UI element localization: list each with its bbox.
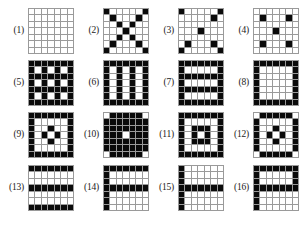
cell <box>198 100 204 106</box>
cell <box>273 132 279 138</box>
cell <box>254 119 260 125</box>
cell <box>254 152 260 158</box>
cell <box>55 87 61 93</box>
cell <box>55 126 61 132</box>
cell <box>254 67 260 73</box>
cell <box>218 152 224 158</box>
cell <box>35 87 41 93</box>
cell <box>179 15 185 21</box>
cell <box>104 119 110 125</box>
cell <box>254 9 260 15</box>
cell <box>123 166 129 172</box>
cell <box>280 93 286 99</box>
panel-15: (15) <box>152 165 224 211</box>
cell <box>205 87 211 93</box>
cell <box>205 185 211 191</box>
cell <box>267 41 273 47</box>
cell <box>130 35 136 41</box>
cell <box>260 145 266 151</box>
cell <box>117 28 123 34</box>
cell <box>123 48 129 54</box>
cell <box>104 166 110 172</box>
cell <box>192 9 198 15</box>
cell <box>192 93 198 99</box>
cell <box>280 9 286 15</box>
cell <box>192 192 198 198</box>
cell <box>29 9 35 15</box>
cell <box>42 28 48 34</box>
cell <box>293 87 299 93</box>
cell <box>110 139 116 145</box>
cell <box>286 172 292 178</box>
cell <box>35 113 41 119</box>
cell <box>35 9 41 15</box>
cell <box>218 126 224 132</box>
cell <box>29 35 35 41</box>
cell <box>211 192 217 198</box>
cell <box>48 80 54 86</box>
cell <box>130 172 136 178</box>
cell <box>286 28 292 34</box>
cell <box>29 145 35 151</box>
cell <box>286 9 292 15</box>
cell <box>143 113 149 119</box>
cell <box>136 172 142 178</box>
cell <box>35 41 41 47</box>
cell <box>293 139 299 145</box>
cell <box>179 87 185 93</box>
cell <box>211 145 217 151</box>
cell <box>42 198 48 204</box>
cell <box>205 61 211 67</box>
cell <box>286 179 292 185</box>
cell <box>130 9 136 15</box>
cell <box>48 87 54 93</box>
cell <box>123 28 129 34</box>
cell <box>293 179 299 185</box>
pattern-2-diagonal-cross <box>103 8 149 54</box>
cell <box>293 61 299 67</box>
cell <box>218 15 224 21</box>
cell <box>185 22 191 28</box>
cell <box>117 35 123 41</box>
cell <box>198 87 204 93</box>
cell <box>260 87 266 93</box>
cell <box>273 100 279 106</box>
cell <box>293 132 299 138</box>
cell <box>273 126 279 132</box>
panel-9: (9) <box>2 112 74 158</box>
cell <box>293 172 299 178</box>
cell <box>192 172 198 178</box>
cell <box>42 166 48 172</box>
pattern-1-empty <box>28 8 74 54</box>
cell <box>55 132 61 138</box>
cell <box>286 192 292 198</box>
cell <box>211 80 217 86</box>
cell <box>130 166 136 172</box>
cell <box>35 28 41 34</box>
cell <box>104 15 110 21</box>
cell <box>104 179 110 185</box>
cell <box>48 192 54 198</box>
cell <box>192 28 198 34</box>
cell <box>42 61 48 67</box>
cell <box>68 139 74 145</box>
cell <box>136 152 142 158</box>
cell <box>48 113 54 119</box>
cell <box>205 205 211 211</box>
panel-10: (10) <box>77 112 149 158</box>
cell <box>286 132 292 138</box>
cell <box>143 28 149 34</box>
cell <box>29 48 35 54</box>
cell <box>130 152 136 158</box>
cell <box>273 15 279 21</box>
cell <box>48 119 54 125</box>
cell <box>143 61 149 67</box>
cell <box>218 41 224 47</box>
cell <box>123 119 129 125</box>
cell <box>68 93 74 99</box>
cell <box>293 74 299 80</box>
cell <box>293 41 299 47</box>
cell <box>68 22 74 28</box>
cell <box>267 132 273 138</box>
cell <box>35 192 41 198</box>
